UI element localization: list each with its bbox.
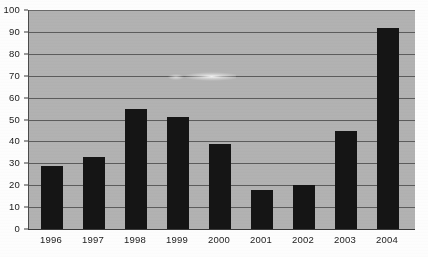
y-tick-label-0: 0 (15, 224, 20, 234)
bar-2002 (293, 185, 315, 229)
y-tick-label-30: 30 (9, 159, 20, 169)
bar-2001 (251, 190, 273, 229)
gridline-70 (29, 76, 415, 77)
bar-2003 (335, 131, 357, 230)
gridline-80 (29, 54, 415, 55)
y-tick-label-40: 40 (9, 137, 20, 147)
gridline-50 (29, 120, 415, 121)
y-tick-label-20: 20 (9, 180, 20, 190)
y-tick-label-100: 100 (4, 5, 20, 15)
x-tick-label-2003: 2003 (323, 235, 367, 245)
y-axis: 100 90 80 70 60 50 40 30 20 10 0 (0, 0, 28, 239)
x-tick-label-2004: 2004 (365, 235, 409, 245)
gridline-100 (29, 10, 415, 11)
gridline-90 (29, 32, 415, 33)
bar-2000 (209, 144, 231, 229)
x-tick-label-2001: 2001 (239, 235, 283, 245)
bar-1996 (41, 166, 63, 230)
plot-area (28, 10, 415, 229)
bar-chart-figure: 100 90 80 70 60 50 40 30 20 10 0 (0, 0, 428, 257)
x-tick-label-1996: 1996 (29, 235, 73, 245)
y-tick-label-50: 50 (9, 115, 20, 125)
y-tick-label-70: 70 (9, 71, 20, 81)
y-tick-label-80: 80 (9, 49, 20, 59)
x-tick-label-2002: 2002 (281, 235, 325, 245)
gridline-40 (29, 141, 415, 142)
bar-2004 (377, 28, 399, 230)
y-tick-label-90: 90 (9, 27, 20, 37)
y-tick-label-60: 60 (9, 93, 20, 103)
x-tick-label-1998: 1998 (113, 235, 157, 245)
x-axis-line (28, 229, 415, 230)
bar-1999 (167, 117, 189, 229)
x-tick-label-1999: 1999 (155, 235, 199, 245)
gridline-60 (29, 98, 415, 99)
x-tick-label-1997: 1997 (71, 235, 115, 245)
bar-1997 (83, 157, 105, 229)
x-tick-label-2000: 2000 (197, 235, 241, 245)
y-tick-label-10: 10 (9, 202, 20, 212)
bar-1998 (125, 109, 147, 230)
x-axis: 1996 1997 1998 1999 2000 2001 2002 2003 … (28, 232, 414, 252)
